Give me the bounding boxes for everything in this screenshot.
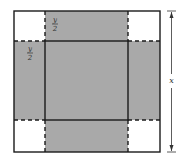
arrow-up-icon [170,12,174,18]
side-length-label: x [169,76,174,85]
arrow-down-icon [170,145,174,151]
label-denominator: 2 [27,54,33,62]
box-net-diagram: y 2 y 2 x [0,0,183,161]
label-denominator: 2 [52,25,58,33]
